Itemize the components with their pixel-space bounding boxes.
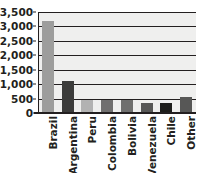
chart-title <box>0 0 204 3</box>
bar <box>62 81 74 113</box>
y-tick-label: 2,000 <box>0 50 33 61</box>
x-tick-slot: Peru <box>78 114 98 173</box>
y-axis-line <box>38 12 39 113</box>
x-tick-slot: Bolivia <box>117 114 137 173</box>
x-tick-label: Other <box>186 116 197 150</box>
y-tick-label: 1,000 <box>0 79 33 90</box>
y-tick-mark <box>33 40 36 41</box>
y-tick-mark <box>33 12 36 13</box>
y-tick-mark <box>33 98 36 99</box>
y-tick-mark <box>33 69 36 70</box>
y-tick-label: 1,500 <box>0 64 33 75</box>
y-tick-label: 2,500 <box>0 36 33 47</box>
x-tick-slot: Argentina <box>58 114 78 173</box>
x-tick-slot: Brazil <box>38 114 58 173</box>
bar-chart: 05001,0001,5002,0002,5003,0003,500 Brazi… <box>0 0 204 173</box>
bar <box>180 97 192 113</box>
x-tick-slot: Venezuela <box>137 114 157 173</box>
y-tick-mark <box>33 84 36 85</box>
x-axis: BrazilArgentinaPeruColombiaBoliviaVenezu… <box>38 114 196 173</box>
y-tick-label: 0 <box>26 108 33 119</box>
y-tick-label: 3,000 <box>0 21 33 32</box>
bar <box>81 100 93 113</box>
x-tick-slot: Colombia <box>97 114 117 173</box>
x-tick-slot: Other <box>176 114 196 173</box>
y-tick-mark <box>33 55 36 56</box>
bar <box>42 21 54 113</box>
y-axis: 05001,0001,5002,0002,5003,0003,500 <box>0 12 36 113</box>
plot-area <box>38 12 196 113</box>
x-tick-slot: Chile <box>157 114 177 173</box>
y-tick-mark <box>33 26 36 27</box>
y-tick-label: 500 <box>11 93 33 104</box>
y-tick-label: 3,500 <box>0 7 33 18</box>
bar-series <box>38 12 196 113</box>
